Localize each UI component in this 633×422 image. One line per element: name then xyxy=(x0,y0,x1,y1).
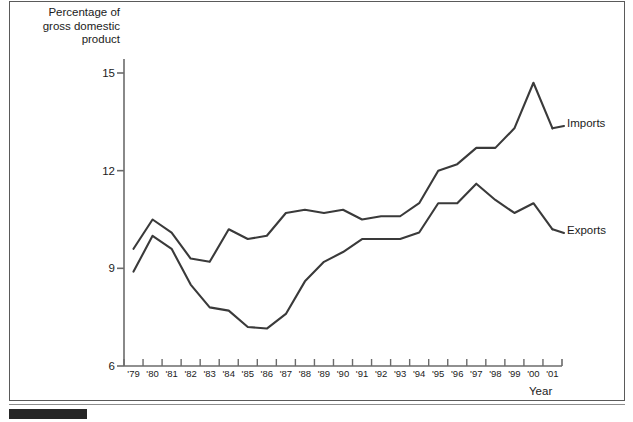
footer-bar xyxy=(9,409,87,419)
y-tick-label-15: 15 xyxy=(89,67,115,79)
chart-figure: Percentage of gross domestic product 691… xyxy=(0,0,633,422)
series-line-imports xyxy=(134,83,553,262)
y-tick-label-9: 9 xyxy=(89,262,115,274)
axes xyxy=(117,59,562,366)
y-tick-label-6: 6 xyxy=(89,360,115,372)
footer-rule xyxy=(9,404,625,405)
leader-line-exports xyxy=(552,229,564,233)
y-tick-label-12: 12 xyxy=(89,165,115,177)
series-label-imports: Imports xyxy=(567,117,605,129)
leader-line-imports xyxy=(552,126,564,128)
series-line-exports xyxy=(134,184,553,329)
x-axis-title: Year xyxy=(529,385,552,397)
data-series xyxy=(134,83,564,329)
plot-area xyxy=(0,0,633,422)
x-tick-label-01: '01 xyxy=(541,369,563,379)
series-label-exports: Exports xyxy=(567,224,606,236)
